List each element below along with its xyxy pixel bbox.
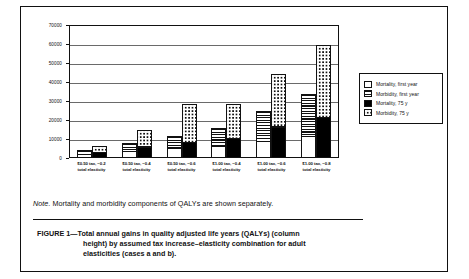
bar-column-a <box>167 136 182 157</box>
legend-item: Mortality, 75 y <box>364 100 438 107</box>
x-axis-label-line2: total elasticity <box>69 167 114 173</box>
x-axis-label: $1.00 tax, −0.8total elasticity <box>294 161 339 172</box>
legend-item: Morbidity, first year <box>364 90 438 97</box>
bar-segment <box>301 136 316 158</box>
x-axis-label: $1.00 tax, −0.4total elasticity <box>204 161 249 172</box>
x-axis-labels: $0.50 tax, −0.2total elasticity$0.50 tax… <box>69 161 339 172</box>
x-axis-label-line2: total elasticity <box>204 167 249 173</box>
x-axis-label: $0.50 tax, −0.6total elasticity <box>159 161 204 172</box>
x-axis-label-line2: total elasticity <box>159 167 204 173</box>
figure-note: Note. Mortality and morbidity components… <box>33 199 437 208</box>
bar-segment <box>226 138 241 158</box>
x-axis-label-line2: total elasticity <box>114 167 159 173</box>
legend-label: Mortality, first year <box>376 81 418 87</box>
x-axis-label: $0.50 tax, −0.4total elasticity <box>114 161 159 172</box>
legend-label: Morbidity, 75 y <box>376 110 409 116</box>
bar-series-container <box>70 26 338 157</box>
legend-label: Morbidity, first year <box>376 91 419 97</box>
bar-column-b <box>316 45 331 157</box>
caption-line-2: height) by assumed tax increase–elastici… <box>37 239 383 249</box>
x-axis-label-line2: total elasticity <box>294 167 339 173</box>
bar-group <box>159 26 204 157</box>
caption-line-3: elasticities (cases a and b). <box>37 249 383 259</box>
bar-column-a <box>77 150 92 157</box>
y-tick-label: 20000 <box>49 118 62 123</box>
x-axis-label: $1.00 tax, −0.6total elasticity <box>249 161 294 172</box>
bar-segment <box>301 94 316 137</box>
bar-group <box>115 26 160 157</box>
bar-group <box>70 26 115 157</box>
figure-caption: FIGURE 1—Total annual gains in quality a… <box>37 229 383 259</box>
y-tick-label: 30000 <box>49 99 62 104</box>
y-tick-mark <box>66 158 69 159</box>
y-tick-label: 0 <box>59 156 62 161</box>
bar-segment <box>316 117 331 158</box>
chart-area: 010000200003000040000500006000070000 $0.… <box>21 11 449 196</box>
y-tick-label: 40000 <box>49 80 62 85</box>
legend-swatch <box>364 81 372 88</box>
figure-container: 010000200003000040000500006000070000 $0.… <box>20 6 448 272</box>
bar-segment <box>182 142 197 158</box>
legend-item: Morbidity, 75 y <box>364 109 438 116</box>
legend-item: Mortality, first year <box>364 81 438 88</box>
bar-column-a <box>211 128 226 157</box>
caption-line-1: FIGURE 1—Total annual gains in quality a… <box>37 229 300 238</box>
bar-segment <box>256 111 271 141</box>
y-tick-label: 10000 <box>49 137 62 142</box>
bar-segment <box>256 141 271 158</box>
bar-column-a <box>122 143 137 157</box>
chart-legend: Mortality, first yearMorbidity, first ye… <box>359 73 443 124</box>
y-tick-label: 70000 <box>49 23 62 28</box>
legend-swatch <box>364 109 372 116</box>
y-tick-label: 60000 <box>49 42 62 47</box>
bar-segment <box>271 127 286 158</box>
bar-column-b <box>226 104 241 157</box>
bar-segment <box>182 104 197 143</box>
bar-segment <box>271 74 286 127</box>
bar-segment <box>92 152 107 158</box>
bar-column-b <box>271 74 286 157</box>
bar-segment <box>137 147 152 158</box>
bar-group <box>293 26 338 157</box>
bar-segment <box>167 136 182 150</box>
bar-group <box>204 26 249 157</box>
legend-swatch <box>364 100 372 107</box>
bar-segment <box>316 45 331 118</box>
y-tick-label: 50000 <box>49 61 62 66</box>
caption-divider <box>33 219 363 220</box>
plot-area <box>69 25 339 158</box>
note-text: Mortality and morbidity components of QA… <box>50 199 273 208</box>
legend-label: Mortality, 75 y <box>376 100 408 106</box>
bar-segment <box>211 128 226 147</box>
bar-segment <box>167 148 182 158</box>
note-prefix: Note. <box>33 199 50 208</box>
bar-column-b <box>182 104 197 157</box>
bar-column-b <box>137 130 152 157</box>
bar-segment <box>211 146 226 158</box>
bar-segment <box>137 130 152 147</box>
bar-column-a <box>256 111 271 157</box>
bar-column-a <box>301 94 316 157</box>
bar-column-b <box>92 146 107 157</box>
bar-segment <box>122 151 137 158</box>
bar-segment <box>226 104 241 139</box>
x-axis-label-line2: total elasticity <box>249 167 294 173</box>
x-axis-label: $0.50 tax, −0.2total elasticity <box>69 161 114 172</box>
legend-swatch <box>364 90 372 97</box>
y-axis: 010000200003000040000500006000070000 <box>21 25 69 158</box>
bar-group <box>249 26 294 157</box>
bar-segment <box>77 154 92 158</box>
